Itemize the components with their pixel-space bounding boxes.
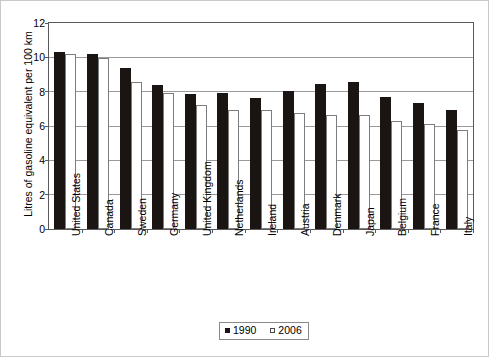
- y-tick-mark: [45, 57, 49, 58]
- x-label-canada: Canada: [102, 116, 116, 236]
- y-tick-mark: [45, 160, 49, 161]
- y-tick-label: 10: [33, 51, 45, 63]
- gridline: [49, 57, 473, 58]
- bar-1990-germany: [152, 85, 163, 229]
- legend-item-2006: 2006: [270, 324, 301, 337]
- chart-figure: Litres of gasoline equivalent per 100 km…: [0, 0, 489, 357]
- y-tick-label: 4: [39, 154, 45, 166]
- y-tick-mark: [45, 91, 49, 92]
- gridline: [49, 91, 473, 92]
- legend-label-2006: 2006: [278, 324, 301, 337]
- y-tick-label: 6: [39, 120, 45, 132]
- y-tick-label: 12: [33, 17, 45, 29]
- y-tick-label: 0: [39, 223, 45, 235]
- x-label-japan: Japan: [363, 116, 377, 236]
- x-label-netherlands: Netherlands: [232, 116, 246, 236]
- x-label-denmark: Denmark: [330, 116, 344, 236]
- x-label-germany: Germany: [167, 116, 181, 236]
- bar-1990-italy: [446, 110, 457, 229]
- bar-1990-canada: [87, 54, 98, 229]
- bar-1990-ireland: [250, 98, 261, 229]
- filled-square-swatch: [225, 328, 230, 333]
- bar-1990-united-kingdom: [185, 94, 196, 229]
- y-tick-mark: [45, 23, 49, 24]
- y-axis-title: Litres of gasoline equivalent per 100 km: [19, 9, 37, 239]
- legend-label-1990: 1990: [233, 324, 256, 337]
- y-tick-mark: [45, 229, 49, 230]
- bar-1990-netherlands: [217, 93, 228, 229]
- x-label-france: France: [428, 116, 442, 236]
- bar-1990-japan: [348, 82, 359, 229]
- x-label-austria: Austria: [298, 116, 312, 236]
- x-label-italy: Italy: [461, 116, 475, 236]
- y-tick-label: 8: [39, 86, 45, 98]
- bar-1990-united-states: [54, 52, 65, 229]
- x-label-belgium: Belgium: [395, 116, 409, 236]
- bar-1990-austria: [283, 91, 294, 229]
- x-label-sweden: Sweden: [135, 116, 149, 236]
- y-tick-mark: [45, 194, 49, 195]
- legend-item-1990: 1990: [225, 324, 256, 337]
- y-tick-mark: [45, 126, 49, 127]
- bar-1990-denmark: [315, 84, 326, 229]
- y-tick-label: 2: [39, 189, 45, 201]
- x-label-ireland: Ireland: [265, 116, 279, 236]
- x-label-united-states: United States: [69, 116, 83, 236]
- bar-1990-sweden: [120, 68, 131, 229]
- x-label-united-kingdom: United Kingdom: [200, 116, 214, 236]
- bar-1990-france: [413, 103, 424, 229]
- bar-1990-belgium: [380, 97, 391, 229]
- open-square-swatch: [270, 328, 275, 333]
- chart-legend: 1990 2006: [219, 322, 309, 340]
